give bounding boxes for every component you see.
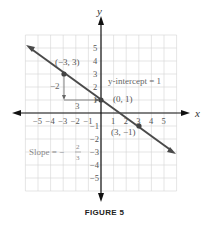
x-tick-label: −5 bbox=[33, 116, 42, 126]
point-label-3-neg1: (3, −1) bbox=[111, 127, 136, 137]
x-axis-arrow-left-icon bbox=[12, 110, 21, 116]
x-axis-label: x bbox=[194, 107, 200, 119]
x-tick-label: 5 bbox=[162, 116, 166, 126]
point-neg3-3 bbox=[61, 71, 66, 76]
x-tick-label: −4 bbox=[46, 116, 56, 126]
point-label-0-1: (0, 1) bbox=[113, 94, 133, 104]
y-tick-label: −5 bbox=[90, 173, 99, 183]
y-tick-label: −4 bbox=[90, 160, 100, 170]
x-tick-label: −2 bbox=[71, 116, 80, 126]
y-tick-label: 3 bbox=[93, 69, 97, 79]
slope-label: Slope = − bbox=[29, 147, 64, 157]
slope-denominator: 3 bbox=[76, 154, 80, 162]
point-label-neg3-3: (−3, 3) bbox=[55, 57, 80, 67]
x-tick-label: 4 bbox=[149, 116, 154, 126]
point-0-1 bbox=[98, 97, 103, 102]
y-tick-label: 5 bbox=[93, 43, 97, 53]
coordinate-plane: x y −5−4−3−2−11234554321−1−2−3−4−5 (−3, … bbox=[0, 0, 209, 205]
rise-arrow-head-icon bbox=[62, 95, 66, 100]
slope-numerator: 2 bbox=[76, 143, 80, 151]
run-label: 3 bbox=[75, 101, 80, 111]
x-tick-label: −3 bbox=[58, 116, 67, 126]
y-axis-arrow-up-icon bbox=[98, 16, 104, 25]
y-tick-label: −2 bbox=[90, 134, 99, 144]
y-tick-label: −1 bbox=[90, 121, 99, 131]
y-axis-arrow-down-icon bbox=[98, 193, 104, 202]
y-intercept-label: y-intercept = 1 bbox=[108, 76, 161, 86]
point-3-neg1 bbox=[136, 123, 141, 128]
figure-caption: FIGURE 5 bbox=[0, 208, 209, 217]
x-axis-arrow-right-icon bbox=[181, 110, 190, 116]
x-tick-label: 1 bbox=[111, 116, 115, 126]
y-tick-label: −3 bbox=[90, 147, 99, 157]
rise-label: −2 bbox=[50, 81, 60, 91]
y-axis-label: y bbox=[96, 5, 102, 17]
y-tick-label: 2 bbox=[93, 82, 97, 92]
